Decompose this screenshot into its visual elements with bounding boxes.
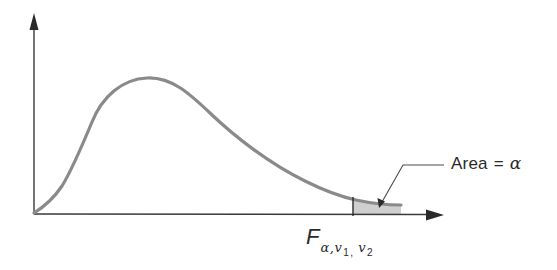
y-axis-arrowhead-icon	[30, 13, 39, 30]
subscript-v1-index: 1	[343, 247, 349, 258]
f-distribution-diagram	[0, 0, 557, 270]
critical-value-label: Fα,v1, v2	[306, 224, 373, 250]
subscript-v1: v	[334, 240, 342, 255]
subscript-alpha: α,	[320, 240, 334, 255]
subscript-v2: v	[358, 240, 366, 255]
alpha-symbol: α	[510, 153, 522, 173]
x-axis-arrowhead-icon	[426, 210, 444, 221]
f-symbol: F	[306, 224, 319, 249]
subscript-separator: ,	[350, 247, 353, 258]
area-leader-line	[382, 165, 444, 202]
area-word: Area	[451, 154, 488, 173]
density-curve	[34, 78, 401, 213]
area-equals-alpha-label: Area=α	[451, 153, 522, 174]
equals-sign: =	[494, 154, 504, 173]
subscript-v2-index: 2	[367, 247, 373, 258]
x-axis	[34, 214, 428, 215]
critical-value-subscript: α,v1, v2	[320, 240, 373, 255]
